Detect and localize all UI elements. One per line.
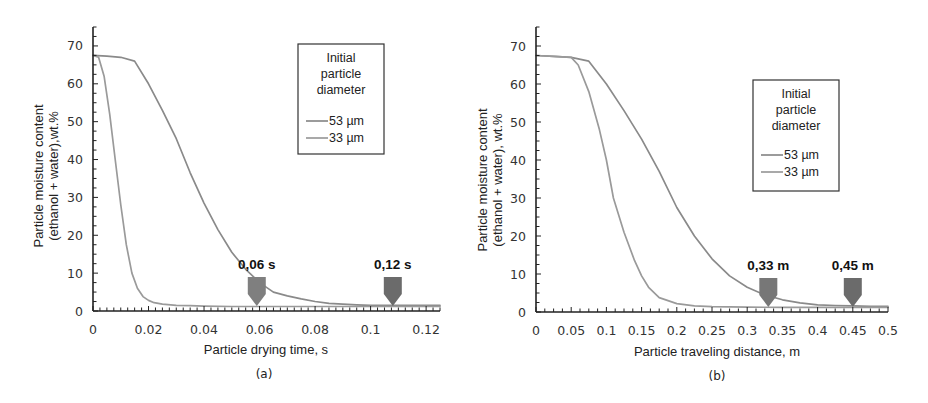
legend-title: Initial xyxy=(326,51,355,65)
y-tick-label: 70 xyxy=(510,39,526,54)
legend-title: particle xyxy=(776,103,816,117)
x-tick-label: 0 xyxy=(89,322,97,337)
figure: 01020304050607000.020.040.060.080.10.12 … xyxy=(0,0,928,403)
x-tick-label: 0.04 xyxy=(190,322,218,337)
y-tick-label: 50 xyxy=(67,114,83,129)
y-tick-label: 10 xyxy=(510,267,526,282)
legend-title: particle xyxy=(321,67,361,81)
x-tick-label: 0.5 xyxy=(878,323,898,338)
y-tick-label: 60 xyxy=(510,77,526,92)
y-axis-title-line2: (ethanol + water),wt.% xyxy=(46,111,61,241)
marker-label: 0,06 s xyxy=(238,257,276,272)
down-arrow-icon xyxy=(384,277,402,306)
legend-title: diameter xyxy=(317,83,366,97)
y-tick-label: 20 xyxy=(510,229,526,244)
x-tick-label: 0.2 xyxy=(667,323,687,338)
x-tick-label: 0.05 xyxy=(557,323,585,338)
y-tick-label: 30 xyxy=(67,190,83,205)
chart-panel-a: 01020304050607000.020.040.060.080.10.12 … xyxy=(31,27,440,381)
y-tick-label: 30 xyxy=(510,191,526,206)
panel-label-a: (a) xyxy=(256,367,273,381)
marker-label: 0,12 s xyxy=(374,257,412,272)
y-tick-label: 40 xyxy=(67,152,83,167)
marker-label: 0,45 m xyxy=(832,258,874,273)
x-tick-label: 0.25 xyxy=(698,323,726,338)
down-arrow-icon xyxy=(759,278,777,307)
y-tick-label: 50 xyxy=(510,115,526,130)
x-tick-label: 0.15 xyxy=(628,323,656,338)
x-axis-title: Particle drying time, s xyxy=(204,342,329,357)
y-axis-title-line1: Particle moisture content xyxy=(31,104,46,247)
y-axis-title-line1: Particle moisture content xyxy=(475,108,490,251)
y-tick-label: 0 xyxy=(518,305,526,320)
chart-panel-b: 01020304050607000.050.10.150.20.250.30.3… xyxy=(475,27,898,383)
down-arrow-icon xyxy=(844,278,862,307)
legend-title: Initial xyxy=(781,87,810,101)
x-axis-title: Particle traveling distance, m xyxy=(634,344,800,359)
legend-title: diameter xyxy=(772,119,821,133)
x-tick-label: 0 xyxy=(532,323,540,338)
y-axis-title-line2: (ethanol + water), wt.% xyxy=(490,113,505,247)
legend: Initialparticlediameter53 µm33 µm xyxy=(298,44,384,154)
legend-entry: 53 µm xyxy=(784,148,819,162)
y-tick-label: 70 xyxy=(67,38,83,53)
annotations: 0,33 m0,45 m xyxy=(747,258,874,307)
x-tick-label: 0.02 xyxy=(135,322,163,337)
x-tick-label: 0.3 xyxy=(737,323,757,338)
down-arrow-icon xyxy=(248,277,266,306)
x-tick-label: 0.45 xyxy=(839,323,867,338)
x-tick-label: 0.08 xyxy=(301,322,329,337)
x-tick-label: 0.12 xyxy=(412,322,440,337)
panel-label-b: (b) xyxy=(709,369,726,383)
axes: 01020304050607000.050.10.150.20.250.30.3… xyxy=(510,27,898,338)
y-tick-label: 20 xyxy=(67,228,83,243)
x-tick-label: 0.1 xyxy=(596,323,616,338)
y-tick-label: 40 xyxy=(510,153,526,168)
annotations: 0,06 s0,12 s xyxy=(238,257,412,306)
legend: Initialparticlediameter53 µm33 µm xyxy=(753,80,839,191)
x-tick-label: 0.35 xyxy=(768,323,796,338)
x-tick-label: 0.4 xyxy=(808,323,828,338)
y-tick-label: 60 xyxy=(67,76,83,91)
legend-entry: 33 µm xyxy=(784,165,819,179)
y-tick-label: 0 xyxy=(75,304,83,319)
x-tick-label: 0.1 xyxy=(361,322,381,337)
x-tick-label: 0.06 xyxy=(246,322,274,337)
legend-entry: 53 µm xyxy=(329,114,364,128)
y-tick-label: 10 xyxy=(67,266,83,281)
legend-entry: 33 µm xyxy=(329,131,364,145)
marker-label: 0,33 m xyxy=(747,258,789,273)
